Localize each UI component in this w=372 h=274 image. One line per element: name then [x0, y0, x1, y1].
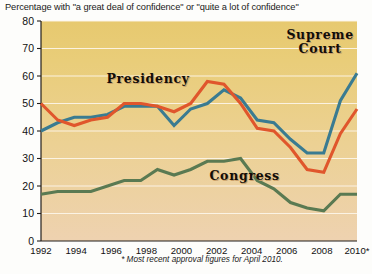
y-axis-ticks: 01020304050607080 [22, 15, 41, 247]
footnote: * Most recent approval figures for April… [42, 255, 362, 264]
y-tick-label: 80 [22, 15, 34, 27]
annotation-supreme-court: Court [299, 41, 342, 56]
confidence-in-institutions-chart: Percentage with "a great deal of confide… [0, 0, 372, 274]
y-tick-label: 50 [22, 97, 34, 109]
annotation-supreme-court: Supreme [286, 27, 353, 42]
annotation-congress: Congress [209, 168, 279, 183]
y-tick-label: 20 [22, 180, 34, 192]
chart-plot-area: 01020304050607080 1992199419961998200020… [0, 0, 372, 274]
y-tick-label: 60 [22, 70, 34, 82]
y-tick-label: 40 [22, 125, 34, 137]
y-tick-label: 10 [22, 207, 34, 219]
y-tick-label: 70 [22, 42, 34, 54]
annotation-presidency: Presidency [106, 71, 189, 86]
y-tick-label: 30 [22, 152, 34, 164]
